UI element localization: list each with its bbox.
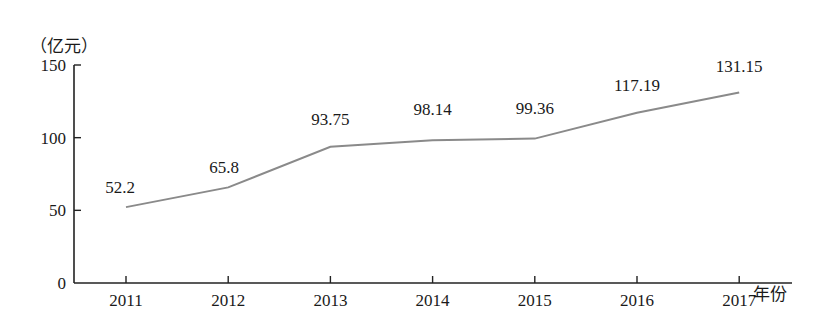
y-axis-unit-label: （亿元）	[30, 37, 98, 56]
data-point-label: 117.19	[614, 76, 660, 95]
y-tick-label: 150	[41, 56, 67, 75]
x-tick-label: 2016	[620, 291, 654, 310]
data-point-label: 131.15	[716, 57, 763, 76]
data-point-label: 98.14	[413, 100, 452, 119]
x-tick-label: 2014	[416, 291, 451, 310]
x-tick-label: 2015	[518, 291, 552, 310]
x-axis-label: 年份	[753, 285, 787, 304]
data-point-label: 93.75	[311, 110, 349, 129]
data-point-label: 99.36	[516, 99, 554, 118]
y-tick-label: 100	[41, 129, 67, 148]
y-tick-label: 0	[58, 274, 67, 293]
data-labels: 52.265.893.7598.1499.36117.19131.15	[105, 57, 762, 197]
x-axis-ticks: 2011201220132014201520162017	[109, 276, 756, 310]
data-point-label: 65.8	[209, 158, 239, 177]
x-tick-label: 2012	[211, 291, 245, 310]
line-chart: （亿元） 050100150 2011201220132014201520162…	[0, 0, 835, 336]
data-point-label: 52.2	[105, 178, 135, 197]
x-tick-label: 2013	[313, 291, 347, 310]
x-tick-label: 2017	[722, 291, 757, 310]
x-tick-label: 2011	[109, 291, 142, 310]
y-tick-label: 50	[49, 201, 66, 220]
y-axis-ticks: 050100150	[41, 56, 82, 293]
axes	[74, 65, 792, 283]
